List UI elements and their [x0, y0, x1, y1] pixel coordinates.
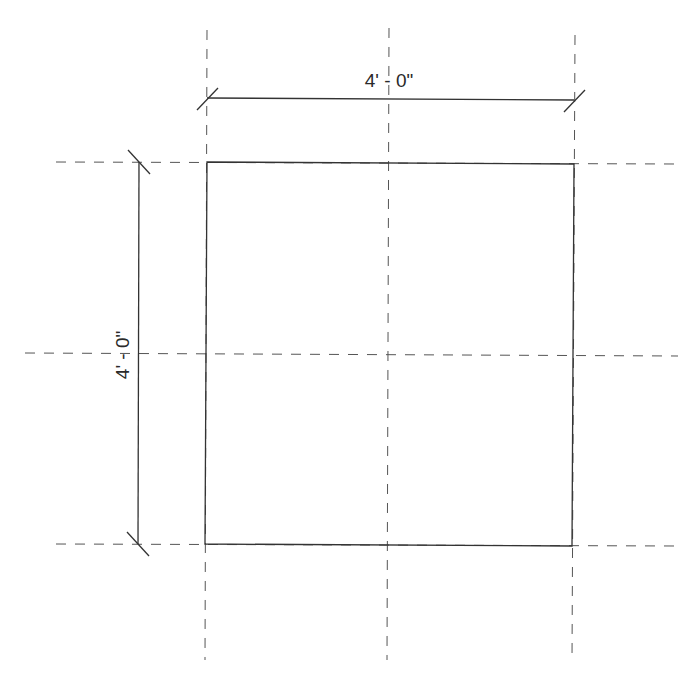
horizontal-dimension-label: 4' - 0" — [365, 70, 413, 91]
plan-drawing: 4' - 0" 4' - 0" — [0, 0, 699, 685]
grid-line-vertical-middle — [387, 28, 389, 660]
horizontal-dimension — [197, 88, 585, 112]
vertical-dimension-label: 4' - 0" — [112, 331, 133, 379]
drawing-canvas: 4' - 0" 4' - 0" — [0, 0, 699, 685]
